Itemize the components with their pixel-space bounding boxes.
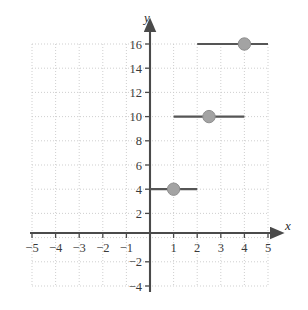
y-axis-label: y	[142, 10, 150, 25]
data-point-marker	[238, 38, 250, 50]
x-tick-label: −2	[96, 241, 109, 255]
x-tick-label: −4	[49, 241, 63, 255]
data-point-marker	[167, 183, 179, 195]
graph-figure: −5 −4 −3 −2 −1 1 2 3 4 5 16 14 12 10 8 6…	[0, 0, 308, 310]
y-tick-label: 10	[130, 110, 143, 124]
x-tick-label: 5	[265, 241, 271, 255]
x-axis-label: x	[284, 218, 291, 233]
x-tick-label: 2	[194, 241, 200, 255]
y-tick-label: 16	[130, 38, 143, 52]
data-point-marker	[203, 110, 215, 122]
y-tick-label: 12	[130, 86, 143, 100]
chart-background	[0, 0, 308, 310]
y-tick-label: 8	[136, 134, 142, 148]
y-tick-label: −2	[129, 255, 142, 269]
y-tick-label: −4	[129, 280, 143, 294]
y-tick-label: 6	[136, 159, 142, 173]
x-tick-label: 3	[218, 241, 224, 255]
x-tick-label: 4	[241, 241, 248, 255]
x-tick-label: 1	[170, 241, 176, 255]
coordinate-plane-chart: −5 −4 −3 −2 −1 1 2 3 4 5 16 14 12 10 8 6…	[0, 0, 308, 310]
x-tick-label: −1	[120, 241, 133, 255]
y-tick-label: 14	[130, 62, 143, 76]
y-tick-label: 2	[136, 207, 142, 221]
x-tick-label: −3	[73, 241, 86, 255]
x-tick-label: −5	[25, 241, 38, 255]
y-tick-label: 4	[136, 183, 143, 197]
